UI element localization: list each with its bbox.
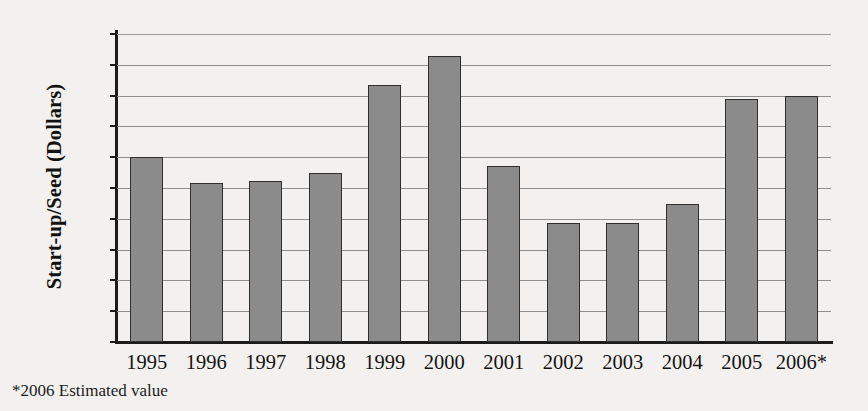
y-axis-tick-mark bbox=[110, 64, 117, 66]
gridline bbox=[117, 219, 831, 220]
bar bbox=[606, 223, 639, 343]
y-axis-title: Start-up/Seed (Dollars) bbox=[43, 27, 66, 347]
y-axis-tick-mark bbox=[110, 249, 117, 251]
gridline bbox=[117, 250, 831, 251]
bar bbox=[785, 96, 818, 342]
x-axis-tick-label: 2006* bbox=[756, 352, 846, 373]
y-axis-tick-mark bbox=[110, 310, 117, 312]
y-axis-tick-mark bbox=[110, 125, 117, 127]
bar-chart-figure: Start-up/Seed (Dollars) 0.00.51.01.52.02… bbox=[0, 0, 868, 411]
bar bbox=[190, 183, 223, 342]
y-axis-tick-mark bbox=[110, 279, 117, 281]
bar bbox=[547, 223, 580, 343]
gridline bbox=[117, 34, 831, 35]
bar bbox=[666, 204, 699, 342]
y-axis-tick-mark bbox=[110, 95, 117, 97]
gridline bbox=[117, 188, 831, 189]
bar bbox=[487, 166, 520, 342]
gridline bbox=[117, 157, 831, 158]
y-axis-tick-mark bbox=[110, 341, 117, 343]
gridline bbox=[117, 65, 831, 66]
gridline bbox=[117, 311, 831, 312]
bar bbox=[249, 181, 282, 342]
plot-area bbox=[117, 34, 831, 342]
gridline bbox=[117, 126, 831, 127]
footnote-text: *2006 Estimated value bbox=[12, 381, 168, 401]
bar bbox=[130, 157, 163, 342]
bar bbox=[309, 173, 342, 342]
y-axis-tick-mark bbox=[110, 33, 117, 35]
y-axis-tick-mark bbox=[110, 156, 117, 158]
y-axis-tick-mark bbox=[110, 218, 117, 220]
y-axis-tick-mark bbox=[110, 187, 117, 189]
bar bbox=[428, 56, 461, 342]
gridline bbox=[117, 96, 831, 97]
bar bbox=[725, 99, 758, 342]
gridline bbox=[117, 280, 831, 281]
bar bbox=[368, 85, 401, 342]
